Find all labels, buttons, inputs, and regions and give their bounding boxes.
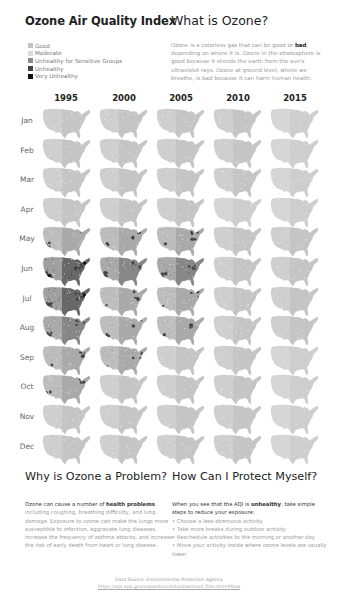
us-map-sep-2015 (270, 344, 320, 376)
bold-health-problems: health problems (106, 501, 155, 507)
month-label-sep: Sep (14, 353, 40, 362)
us-map-oct-2015 (270, 373, 320, 405)
legend-swatch-good (28, 43, 33, 48)
us-map-jan-1995 (42, 107, 92, 139)
us-map-sep-1995 (42, 344, 92, 376)
us-map-may-2015 (270, 225, 320, 257)
legend-item-good: Good (28, 42, 122, 50)
us-map-dec-1995 (42, 433, 92, 465)
protect-text: When you see that the AQI is unhealthy, … (172, 500, 330, 558)
us-map-may-2010 (213, 225, 263, 257)
us-map-mar-2005 (156, 166, 206, 198)
legend-item-unhealthy: Unhealthy (28, 65, 122, 73)
what-is-ozone-heading: What is Ozone? (171, 13, 268, 28)
us-map-dec-2005 (156, 433, 206, 465)
month-label-may: May (14, 234, 40, 243)
us-map-aug-2015 (270, 314, 320, 346)
text-span: Ozone can cause a number of (25, 501, 106, 507)
us-map-nov-2010 (213, 403, 263, 435)
us-map-jan-2005 (156, 107, 206, 139)
legend-label: Good (35, 43, 50, 49)
bold-unhealthy: unhealthy (251, 501, 281, 507)
legend-swatch-usg (28, 58, 33, 63)
legend-label: Very Unhealthy (35, 73, 78, 79)
us-map-feb-2010 (213, 137, 263, 169)
us-map-feb-2005 (156, 137, 206, 169)
us-map-mar-2010 (213, 166, 263, 198)
us-map-dec-2010 (213, 433, 263, 465)
why-problem-text: Ozone can cause a number of health probl… (25, 500, 175, 550)
text-span: Ozone is a colorless gas that can be goo… (171, 42, 295, 48)
data-source-link[interactable]: https://aqs.epa.gov/aqsweb/airdata/downl… (0, 584, 338, 589)
us-map-feb-2000 (99, 137, 149, 169)
us-map-dec-2015 (270, 433, 320, 465)
legend-label: Unhealthy (35, 66, 64, 72)
month-label-oct: Oct (14, 382, 40, 391)
us-map-oct-2010 (213, 373, 263, 405)
why-problem-heading: Why is Ozone a Problem? (25, 470, 167, 483)
us-map-jun-2015 (270, 255, 320, 287)
us-map-nov-2015 (270, 403, 320, 435)
us-map-apr-1995 (42, 196, 92, 228)
us-map-jul-2000 (99, 285, 149, 317)
year-header-2000: 2000 (99, 93, 149, 103)
protect-heading: How Can I Protect Myself? (172, 470, 317, 483)
legend: Good Moderate Unhealthy for Sensitive Gr… (28, 42, 122, 80)
us-map-sep-2010 (213, 344, 263, 376)
year-header-2010: 2010 (213, 93, 263, 103)
us-map-jul-2010 (213, 285, 263, 317)
us-map-mar-2015 (270, 166, 320, 198)
us-map-sep-2000 (99, 344, 149, 376)
us-map-nov-1995 (42, 403, 92, 435)
us-map-apr-2010 (213, 196, 263, 228)
legend-item-usg: Unhealthy for Sensitive Groups (28, 57, 122, 65)
what-is-ozone-text: Ozone is a colorless gas that can be goo… (171, 41, 329, 82)
month-label-aug: Aug (14, 323, 40, 332)
us-map-apr-2000 (99, 196, 149, 228)
us-map-mar-2000 (99, 166, 149, 198)
us-map-oct-2000 (99, 373, 149, 405)
month-label-dec: Dec (14, 442, 40, 451)
month-label-feb: Feb (14, 146, 40, 155)
us-map-nov-2005 (156, 403, 206, 435)
month-label-apr: Apr (14, 205, 40, 214)
year-header-1995: 1995 (41, 93, 91, 103)
bullet-item: • Reschedule activities to the morning o… (172, 533, 330, 541)
us-map-aug-2010 (213, 314, 263, 346)
legend-item-moderate: Moderate (28, 50, 122, 58)
legend-label: Unhealthy for Sensitive Groups (35, 58, 122, 64)
text-span: , including coughing, breathing difficul… (25, 501, 173, 548)
us-map-jan-2000 (99, 107, 149, 139)
page-title: Ozone Air Quality Index (25, 14, 176, 28)
month-label-mar: Mar (14, 175, 40, 184)
us-map-jun-1995 (42, 255, 92, 287)
us-map-nov-2000 (99, 403, 149, 435)
year-header-2005: 2005 (156, 93, 206, 103)
bold-bad: bad (295, 42, 307, 48)
us-map-aug-2005 (156, 314, 206, 346)
us-map-jul-2005 (156, 285, 206, 317)
us-map-feb-1995 (42, 137, 92, 169)
year-header-2015: 2015 (270, 93, 320, 103)
us-map-aug-1995 (42, 314, 92, 346)
us-map-jun-2005 (156, 255, 206, 287)
us-map-jun-2010 (213, 255, 263, 287)
month-label-jan: Jan (14, 116, 40, 125)
text-span: When you see that the AQI is (172, 501, 251, 507)
bullet-item: • Take more breaks during outdoor activi… (172, 525, 330, 533)
us-map-apr-2005 (156, 196, 206, 228)
us-map-jun-2000 (99, 255, 149, 287)
legend-swatch-unhealthy (28, 66, 33, 71)
us-map-dec-2000 (99, 433, 149, 465)
legend-label: Moderate (35, 50, 62, 56)
data-source: Data Source: Environmental Protection Ag… (0, 577, 338, 582)
us-map-jan-2010 (213, 107, 263, 139)
legend-swatch-very-unhealthy (28, 74, 33, 79)
month-label-nov: Nov (14, 412, 40, 421)
bullet-item: • Move your activity inside where ozone … (172, 541, 330, 558)
us-map-oct-2005 (156, 373, 206, 405)
us-map-jul-2015 (270, 285, 320, 317)
us-map-may-2000 (99, 225, 149, 257)
us-map-aug-2000 (99, 314, 149, 346)
legend-swatch-moderate (28, 51, 33, 56)
